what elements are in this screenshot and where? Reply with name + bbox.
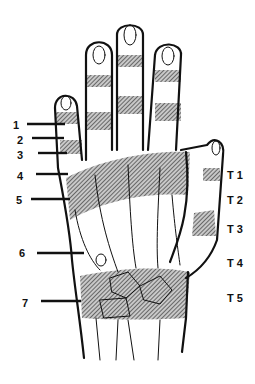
label-zone-t3: T 3 xyxy=(227,223,243,235)
label-zone-t4: T 4 xyxy=(227,257,244,269)
label-zone-t1: T 1 xyxy=(227,169,243,181)
zone-thumb-mcp xyxy=(192,210,216,236)
hatched-zones xyxy=(56,55,220,320)
middle-finger-outline xyxy=(117,25,143,150)
zone-middle-pip xyxy=(117,96,143,114)
zone-middle-dip xyxy=(117,55,143,67)
label-zone-1: 1 xyxy=(13,119,19,131)
label-zone-t5: T 5 xyxy=(227,292,243,304)
hand-diagram: 1 2 3 4 5 6 7 T 1 T 2 T 3 T 4 T 5 xyxy=(0,0,255,384)
label-zone-t2: T 2 xyxy=(227,194,243,206)
zone-wrist xyxy=(80,269,190,320)
little-finger-outline xyxy=(55,96,82,168)
label-zone-3: 3 xyxy=(17,149,23,161)
thumb-zone-labels: T 1 T 2 T 3 T 4 T 5 xyxy=(227,169,244,304)
index-finger-outline xyxy=(86,42,112,160)
label-zone-5: 5 xyxy=(16,194,22,206)
label-zone-2: 2 xyxy=(17,134,23,146)
zone-index-dip xyxy=(86,75,112,87)
zone-mcp-band xyxy=(66,152,190,220)
zone-index-pip xyxy=(86,112,112,130)
zone-thumb-ip xyxy=(203,168,220,181)
label-zone-7: 7 xyxy=(22,297,28,309)
label-zone-6: 6 xyxy=(19,247,25,259)
label-zone-4: 4 xyxy=(17,170,24,182)
zone-little-dip xyxy=(56,112,78,124)
zone-ring-dip xyxy=(155,70,181,82)
ring-finger-outline xyxy=(148,44,181,150)
